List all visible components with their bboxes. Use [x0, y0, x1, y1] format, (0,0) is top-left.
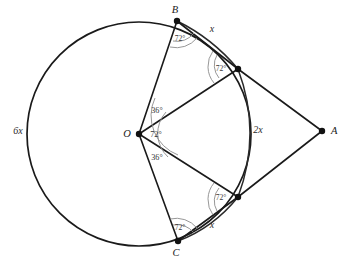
arc-label-6x: 6x	[13, 125, 23, 136]
segment-O-C	[139, 134, 178, 241]
angle-arc-E-outer	[208, 183, 214, 215]
angle-label-C: 72°	[175, 223, 186, 232]
point-label-O: O	[123, 128, 131, 139]
point-label-C: C	[172, 247, 180, 258]
vertex-dot-D	[235, 66, 241, 72]
arc-label-x-bottom: x	[209, 219, 215, 230]
arc-label-2x: 2x	[253, 124, 263, 135]
vertex-dot-C	[175, 238, 181, 244]
segment-O-B	[139, 21, 177, 134]
angle-label-O-lower: 36°	[151, 153, 162, 162]
angle-label-D: 72°	[216, 64, 227, 73]
point-label-A: A	[330, 125, 338, 136]
arc-D-to-E	[238, 69, 250, 197]
angle-label-E: 72°	[216, 193, 227, 202]
vertex-dot-A	[319, 128, 325, 134]
geometry-figure: B A C O 6x x 2x x 72° 72° 36° 72° 36° 72…	[0, 0, 346, 264]
angle-label-O-middle: 72°	[150, 130, 161, 139]
segment-O-E	[139, 134, 238, 197]
vertex-dot-E	[235, 194, 241, 200]
angle-arc-D-outer	[208, 51, 214, 83]
vertex-dot-O	[136, 131, 142, 137]
angle-label-B: 72°	[175, 34, 186, 43]
arc-label-x-top: x	[209, 23, 215, 34]
segment-B-D	[177, 21, 238, 69]
geometry-diagram-canvas: B A C O 6x x 2x x 72° 72° 36° 72° 36° 72…	[0, 0, 346, 264]
vertex-dot-B	[174, 18, 180, 24]
point-label-B: B	[172, 4, 179, 15]
angle-label-O-upper: 36°	[151, 106, 162, 115]
